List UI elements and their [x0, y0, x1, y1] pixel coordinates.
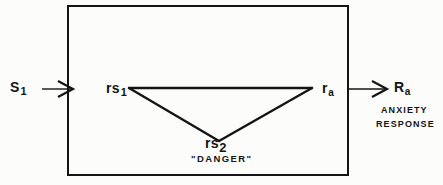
node-annotation-danger: "DANGER" — [191, 154, 252, 164]
node-label-rs2: rs2 — [205, 136, 226, 150]
link-rs2-to-ra — [219, 88, 312, 141]
stimulus-label-subscript: 1 — [21, 85, 27, 97]
node-label-ra-subscript: a — [328, 87, 334, 98]
response-caption-line-2: RESPONSE — [376, 120, 435, 129]
link-rs1-to-rs2 — [129, 88, 219, 141]
node-label-rs2-main: rs — [205, 135, 219, 151]
node-label-ra-main: r — [322, 80, 328, 96]
node-label-rs1: rs1 — [106, 81, 126, 95]
stimulus-label: S1 — [10, 80, 26, 94]
node-label-rs1-main: rs — [106, 80, 120, 96]
node-label-rs1-subscript: 1 — [121, 86, 127, 98]
response-label: Ra — [394, 80, 410, 94]
node-label-ra: ra — [322, 81, 333, 95]
diagram-canvas: S1 rs1 ra rs2 "DANGER" Ra ANXIETY RESPON… — [0, 0, 443, 185]
stimulus-label-main: S — [10, 79, 20, 95]
response-caption-line-1: ANXIETY — [381, 106, 428, 115]
response-label-main: R — [394, 79, 404, 95]
response-label-subscript: a — [405, 86, 411, 97]
